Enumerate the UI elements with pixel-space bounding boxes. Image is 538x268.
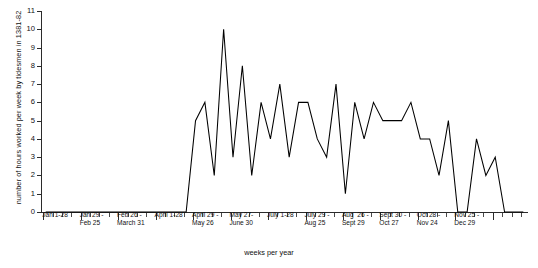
x-axis-group-label: Feb 26 -March 31	[117, 211, 145, 227]
x-axis-minor-tick	[446, 213, 447, 217]
x-axis-group-label-line1: May 27-	[229, 211, 253, 219]
x-axis-group-label-line2: March 31	[117, 219, 145, 227]
x-axis-minor-tick	[521, 213, 522, 217]
x-axis-group-label: Nov 25 -Dec 29	[454, 211, 479, 227]
x-axis-minor-tick	[109, 213, 110, 217]
y-axis-tick-label: 9	[31, 44, 35, 52]
x-axis-group-label-line1: Nov 25 -	[454, 211, 479, 219]
x-axis-minor-tick	[184, 213, 185, 217]
x-axis-group-label-line1: July 1-28	[267, 211, 294, 219]
x-axis-minor-tick	[71, 213, 72, 217]
x-axis-group-label-line2: Aug 25	[304, 219, 329, 227]
y-axis-tick-label: 2	[31, 172, 35, 180]
y-axis-tick-label: 1	[31, 190, 35, 198]
x-axis-minor-tick	[221, 213, 222, 217]
y-axis-tick-label: 5	[31, 117, 35, 125]
x-axis-minor-tick	[483, 213, 484, 217]
x-axis-group-label-line2: Feb 25	[80, 219, 104, 227]
y-axis-tick-label: 3	[31, 153, 35, 161]
x-axis-group-label-line1: April 29 -	[192, 211, 218, 219]
y-axis-tick-label: 0	[31, 208, 35, 216]
y-axis-tick-label: 6	[31, 99, 35, 107]
x-axis-minor-tick	[259, 213, 260, 217]
x-axis-group-label-line1: Oct 28 -	[417, 211, 440, 219]
plot-area: 01234567891011	[41, 11, 528, 213]
x-axis-group-label: April 29 -May 26	[192, 211, 218, 227]
x-axis-group-label-line2: May 26	[192, 219, 218, 227]
x-axis-group-label: April 1-28	[155, 211, 183, 219]
y-axis-tick-label: 11	[27, 7, 35, 15]
x-axis-group-label-line1: Feb 26 -	[117, 211, 145, 219]
x-axis-group-label-line1: April 1-28	[155, 211, 183, 219]
x-axis-group-label-line2: Sept 29	[342, 219, 369, 227]
data-line-series	[41, 11, 528, 213]
x-axis-group-label-line1: Jan 29 -	[80, 211, 104, 219]
x-axis-minor-tick	[334, 213, 335, 217]
x-axis-group-label: Jan 1-28	[42, 211, 68, 219]
x-axis-group-label-line2: June 30	[229, 219, 253, 227]
x-axis-group-label: Jan 29 -Feb 25	[80, 211, 104, 227]
x-axis-minor-tick	[502, 213, 503, 217]
y-axis-tick-label: 7	[31, 80, 35, 88]
x-axis-group-label: Sept 30 -Oct 27	[379, 211, 406, 227]
x-axis-minor-tick	[371, 213, 372, 217]
chart-figure: number of hours worked per week by tides…	[0, 0, 538, 268]
x-axis-group-label-line2: Nov 24	[417, 219, 440, 227]
x-axis-minor-tick	[512, 213, 513, 217]
x-axis-group-label: July 29 -Aug 25	[304, 211, 329, 227]
x-axis-minor-tick	[146, 213, 147, 217]
data-polyline	[46, 29, 524, 212]
x-axis-group-label: Oct 28 -Nov 24	[417, 211, 440, 227]
x-axis-group-label-line2: Oct 27	[379, 219, 406, 227]
x-axis-group-label: May 27-June 30	[229, 211, 253, 227]
x-axis-minor-tick	[409, 213, 410, 217]
x-axis-title: weeks per year	[0, 248, 538, 257]
y-axis-tick-label: 8	[31, 62, 35, 70]
x-axis-group-label-line1: July 29 -	[304, 211, 329, 219]
x-axis-group-label-line2: Dec 29	[454, 219, 479, 227]
y-axis-title: number of hours worked per week by tides…	[14, 0, 23, 218]
x-axis-group-label-line1: Aug 26 -	[342, 211, 369, 219]
x-axis-major-tick	[493, 213, 494, 220]
x-axis-group-label: July 1-28	[267, 211, 294, 219]
x-axis-minor-tick	[296, 213, 297, 217]
x-axis-group-label-line1: Sept 30 -	[379, 211, 406, 219]
x-axis-group-label: Aug 26 -Sept 29	[342, 211, 369, 227]
y-axis-tick-label: 10	[27, 25, 35, 33]
x-axis-group-label-line1: Jan 1-28	[42, 211, 68, 219]
y-axis-tick-label: 4	[31, 135, 35, 143]
